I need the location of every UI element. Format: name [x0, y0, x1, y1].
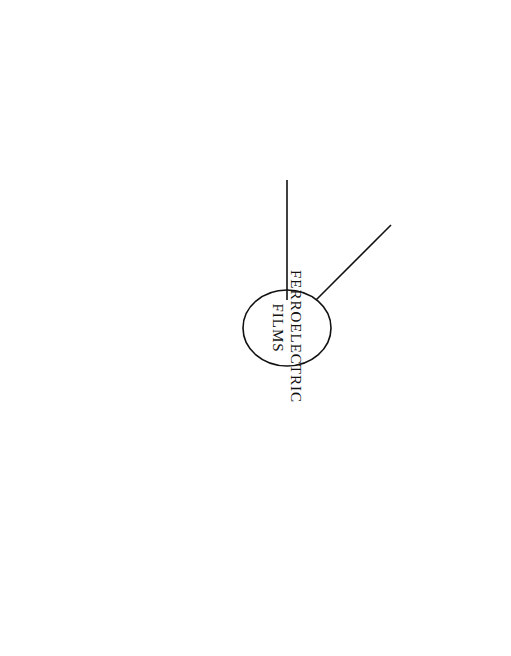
center-label-line1: FERROELECTRIC: [287, 270, 305, 386]
figure-canvas: FERROELECTRIC FILMS: [0, 0, 511, 656]
diagram-lines: [0, 0, 511, 656]
center-label-line2: FILMS: [269, 270, 287, 386]
center-label: FERROELECTRIC FILMS: [269, 270, 305, 386]
